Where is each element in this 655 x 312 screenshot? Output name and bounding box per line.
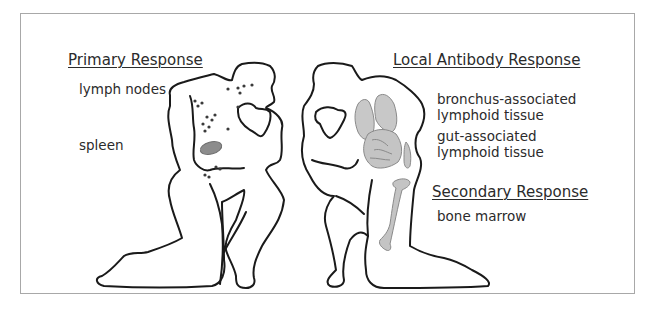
- label-bronchus-line2: lymphoid tissue: [437, 107, 544, 124]
- figures-canvas: [0, 0, 655, 312]
- spleen-organ: [199, 139, 223, 156]
- primary-response-heading: Primary Response: [68, 51, 203, 69]
- local-antibody-response-heading: Local Antibody Response: [393, 51, 580, 69]
- label-bronchus-line1: bronchus-associated: [437, 91, 576, 108]
- label-lymph-nodes: lymph nodes: [79, 81, 166, 98]
- secondary-response-heading: Secondary Response: [432, 183, 588, 201]
- bone-marrow-femur: [379, 179, 410, 251]
- gut-tissue: [364, 130, 411, 169]
- lymph-nodes: [193, 83, 253, 178]
- label-gut-line2: lymphoid tissue: [437, 144, 544, 161]
- label-gut-line1: gut-associated: [437, 128, 537, 145]
- label-bone-marrow: bone marrow: [437, 208, 526, 225]
- label-spleen: spleen: [79, 137, 124, 154]
